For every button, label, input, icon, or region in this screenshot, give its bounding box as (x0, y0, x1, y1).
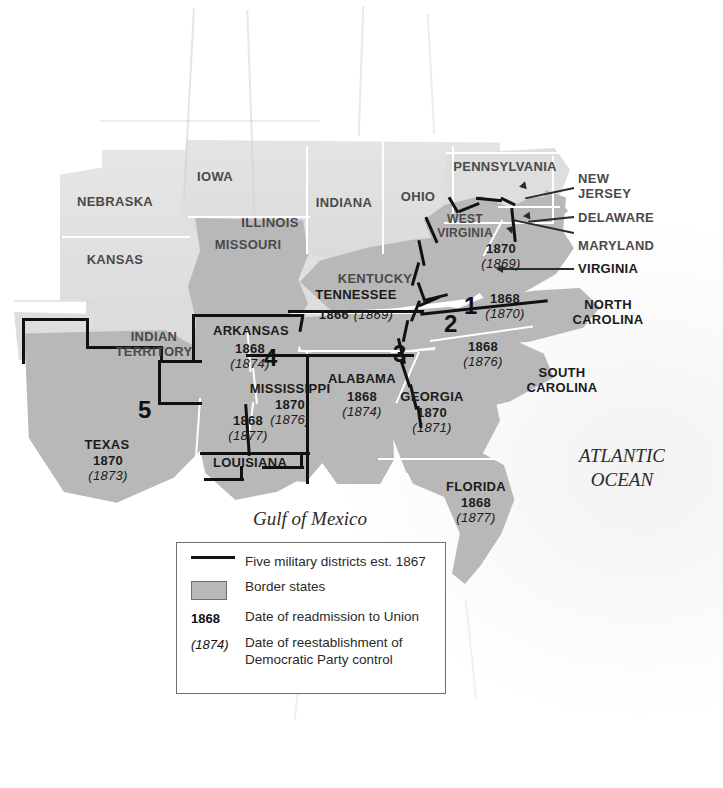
district-line-swatch (191, 556, 235, 559)
label-new-jersey: NEW JERSEY (578, 172, 690, 202)
district-number-4: 4 (264, 344, 277, 372)
virginia-democratic-year: (1869) (464, 257, 538, 272)
label-missouri: MISSOURI (196, 238, 300, 253)
label-virginia: VIRGINIA (578, 262, 688, 277)
border-state-swatch (191, 581, 227, 600)
florida-readmission-year: 1868 (438, 496, 514, 511)
louisiana-democratic-year: (1877) (210, 429, 286, 444)
label-north-carolina-line2: CAROLINA (548, 313, 668, 328)
label-indian-territory-line1: INDIAN (96, 330, 212, 345)
dates-north-carolina: 1868 (1870) (468, 292, 542, 322)
mississippi-readmission-year: 1870 (252, 398, 328, 413)
label-maryland: MARYLAND (578, 239, 698, 254)
label-kentucky: KENTUCKY (320, 272, 430, 287)
texas-readmission-year: 1870 (70, 454, 146, 469)
label-illinois: ILLINOIS (220, 216, 320, 231)
label-north-carolina-line1: NORTH (548, 298, 668, 313)
reconstruction-map: NEBRASKA KANSAS IOWA ILLINOIS INDIANA OH… (0, 0, 723, 788)
dates-texas: 1870 (1873) (70, 454, 146, 484)
label-atlantic-ocean: ATLANTIC OCEAN (552, 444, 692, 492)
label-west-virginia: WEST VIRGINIA (420, 213, 510, 241)
label-georgia: GEORGIA (386, 390, 478, 405)
legend-row-readmission: 1868 Date of readmission to Union (191, 609, 433, 626)
legend-key-democratic: (1874) (191, 635, 245, 652)
label-new-jersey-line2: JERSEY (578, 187, 690, 202)
democratic-year-sample: (1874) (191, 637, 229, 652)
label-atlantic-ocean-line1: ATLANTIC (552, 444, 692, 468)
leader-arrow-delaware (523, 212, 531, 221)
legend-label-democratic-control: Date of reestablishment of Democratic Pa… (245, 635, 403, 668)
legend-row-democratic-control: (1874) Date of reestablishment of Democr… (191, 635, 433, 668)
legend-row-military-districts: Five military districts est. 1867 (191, 554, 433, 570)
legend-key-district-line (191, 554, 245, 559)
label-west-virginia-line2: VIRGINIA (420, 227, 510, 241)
south-carolina-readmission-year: 1868 (446, 340, 520, 355)
district-number-2: 2 (444, 310, 457, 338)
label-texas: TEXAS (62, 438, 152, 453)
tennessee-democratic-year: (1869) (354, 307, 393, 322)
label-nebraska: NEBRASKA (60, 195, 170, 210)
texas-democratic-year: (1873) (70, 469, 146, 484)
north-carolina-readmission-year: 1868 (468, 292, 542, 307)
district-number-1: 1 (464, 292, 477, 320)
district-number-3: 3 (393, 340, 406, 368)
legend-key-border-swatch (191, 579, 245, 600)
label-delaware: DELAWARE (578, 211, 698, 226)
dates-florida: 1868 (1877) (438, 496, 514, 526)
dates-georgia: 1870 (1871) (395, 406, 469, 436)
label-indiana: INDIANA (296, 196, 392, 211)
legend-row-border-states: Border states (191, 579, 433, 600)
label-pennsylvania: PENNSYLVANIA (440, 160, 570, 175)
legend-key-readmission: 1868 (191, 609, 245, 626)
label-arkansas: ARKANSAS (198, 324, 304, 339)
label-south-carolina: SOUTH CAROLINA (502, 366, 622, 396)
label-louisiana: LOUISIANA (196, 456, 304, 471)
label-indian-territory-line2: TERRITORY (96, 345, 212, 360)
legend-label-border-states: Border states (245, 579, 325, 595)
florida-democratic-year: (1877) (438, 511, 514, 526)
legend-label-democratic-line1: Date of reestablishment of (245, 635, 403, 651)
district-number-5: 5 (138, 396, 151, 424)
label-florida: FLORIDA (430, 480, 522, 495)
louisiana-readmission-year: 1868 (210, 414, 286, 429)
label-west-virginia-line1: WEST (420, 213, 510, 227)
tennessee-readmission-year: 1866 (319, 307, 349, 322)
virginia-readmission-year: 1870 (464, 242, 538, 257)
map-legend: Five military districts est. 1867 Border… (176, 542, 446, 694)
dates-louisiana: 1868 (1877) (210, 414, 286, 444)
label-indian-territory: INDIAN TERRITORY (96, 330, 212, 360)
legend-label-military-districts: Five military districts est. 1867 (245, 554, 426, 570)
label-south-carolina-line2: CAROLINA (502, 381, 622, 396)
label-mississippi: MISSISSIPPI (232, 382, 348, 397)
label-ohio: OHIO (382, 190, 454, 205)
alabama-democratic-year: (1874) (325, 405, 399, 420)
label-iowa: IOWA (170, 170, 260, 185)
dates-virginia: 1870 (1869) (464, 242, 538, 272)
north-carolina-democratic-year: (1870) (468, 307, 542, 322)
label-atlantic-ocean-line2: OCEAN (552, 468, 692, 492)
georgia-readmission-year: 1870 (395, 406, 469, 421)
readmission-year-sample: 1868 (191, 611, 220, 626)
label-south-carolina-line1: SOUTH (502, 366, 622, 381)
legend-label-democratic-line2: Democratic Party control (245, 652, 403, 668)
legend-label-readmission: Date of readmission to Union (245, 609, 419, 625)
label-gulf-of-mexico: Gulf of Mexico (220, 507, 400, 531)
label-tennessee: TENNESSEE (296, 288, 416, 303)
dates-tennessee: 1866 (1869) (292, 305, 420, 323)
georgia-democratic-year: (1871) (395, 421, 469, 436)
label-north-carolina: NORTH CAROLINA (548, 298, 668, 328)
label-new-jersey-line1: NEW (578, 172, 690, 187)
leader-arrow-new-jersey (518, 181, 527, 190)
label-kansas: KANSAS (68, 253, 162, 268)
